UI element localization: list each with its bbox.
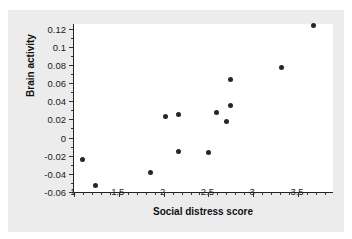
x-axis-minor-tick xyxy=(271,192,272,195)
figure-panel: Social distress score Brain activity 11.… xyxy=(8,10,344,232)
y-axis-minor-tick xyxy=(71,147,74,148)
x-axis-minor-tick xyxy=(235,192,236,195)
y-axis-tick xyxy=(69,65,74,66)
data-point xyxy=(228,103,233,108)
data-point xyxy=(93,183,98,188)
data-point xyxy=(176,149,181,154)
y-axis-label: Brain activity xyxy=(25,6,36,126)
y-axis-tick-label: -0.06 xyxy=(44,187,66,198)
y-axis-minor-tick xyxy=(71,128,74,129)
data-point xyxy=(214,110,219,115)
y-axis-tick-label: 0.12 xyxy=(48,23,67,34)
y-axis-tick-label: 0.08 xyxy=(48,59,67,70)
data-point xyxy=(206,150,211,155)
data-point xyxy=(224,119,229,124)
x-axis-minor-tick xyxy=(325,192,326,195)
y-axis-tick-label: 0 xyxy=(61,132,66,143)
y-axis-minor-tick xyxy=(71,92,74,93)
y-axis-tick-label: 0.1 xyxy=(53,41,66,52)
y-axis-tick-label: 0.04 xyxy=(48,96,67,107)
y-axis-tick-label: 0.02 xyxy=(48,114,67,125)
y-axis-minor-tick xyxy=(71,165,74,166)
x-axis-label: Social distress score xyxy=(73,206,333,217)
y-axis-minor-tick xyxy=(71,110,74,111)
data-point xyxy=(163,114,168,119)
y-axis-minor-tick xyxy=(71,38,74,39)
x-axis-tick-label: 3.5 xyxy=(290,186,303,197)
y-axis-tick xyxy=(69,83,74,84)
x-axis-minor-tick xyxy=(92,192,93,195)
y-axis-minor-tick xyxy=(71,56,74,57)
scatter-plot-area xyxy=(73,24,333,193)
y-axis-tick xyxy=(69,101,74,102)
x-axis-minor-tick xyxy=(244,192,245,195)
x-axis-minor-tick xyxy=(226,192,227,195)
y-axis-minor-tick xyxy=(71,74,74,75)
x-axis-minor-tick xyxy=(307,192,308,195)
x-axis-minor-tick xyxy=(137,192,138,195)
x-axis-minor-tick xyxy=(182,192,183,195)
data-point xyxy=(279,65,284,70)
x-axis-minor-tick xyxy=(173,192,174,195)
x-axis-tick-label: 1.5 xyxy=(111,186,124,197)
data-point xyxy=(148,170,153,175)
data-point xyxy=(311,23,316,28)
y-axis-tick xyxy=(69,138,74,139)
x-axis-minor-tick xyxy=(217,192,218,195)
data-point xyxy=(176,112,181,117)
y-axis-minor-tick xyxy=(71,183,74,184)
x-axis-minor-tick xyxy=(128,192,129,195)
x-axis-minor-tick xyxy=(191,192,192,195)
y-axis-tick-label: 0.06 xyxy=(48,78,67,89)
x-axis-minor-tick xyxy=(155,192,156,195)
y-axis-tick-label: -0.02 xyxy=(44,150,66,161)
x-axis-minor-tick xyxy=(262,192,263,195)
x-axis-tick-label: 1 xyxy=(70,186,75,197)
y-axis-tick xyxy=(69,47,74,48)
x-axis-tick-label: 2.5 xyxy=(201,186,214,197)
y-axis-tick xyxy=(69,29,74,30)
x-axis-minor-tick xyxy=(316,192,317,195)
y-axis-tick xyxy=(69,156,74,157)
y-axis-tick-label: -0.04 xyxy=(44,168,66,179)
x-axis-minor-tick xyxy=(146,192,147,195)
x-axis-minor-tick xyxy=(83,192,84,195)
x-axis-minor-tick xyxy=(101,192,102,195)
x-axis-minor-tick xyxy=(280,192,281,195)
y-axis-tick xyxy=(69,119,74,120)
data-point xyxy=(80,157,85,162)
x-axis-tick-label: 2 xyxy=(160,186,165,197)
x-axis-tick-label: 3 xyxy=(250,186,255,197)
y-axis-tick xyxy=(69,174,74,175)
data-point xyxy=(228,77,233,82)
